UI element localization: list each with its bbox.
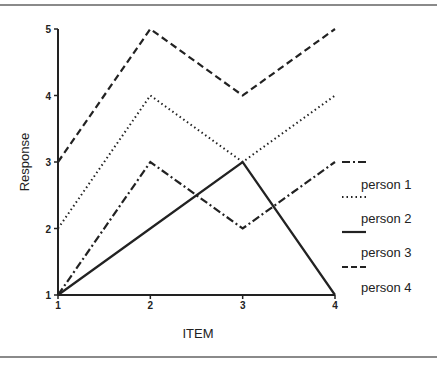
legend-label: person 1: [361, 177, 412, 192]
axes: 123451234: [45, 24, 338, 311]
y-tick-label: 4: [45, 91, 51, 102]
x-tick-label: 1: [55, 300, 61, 311]
x-tick-label: 4: [332, 300, 338, 311]
legend: person 1person 2person 3person 4: [342, 162, 412, 295]
x-axis-label: ITEM: [182, 326, 213, 341]
legend-label: person 4: [361, 280, 412, 295]
line-chart: 123451234 person 1person 2person 3person…: [0, 0, 437, 367]
x-tick-label: 2: [148, 300, 154, 311]
x-tick-label: 3: [240, 300, 246, 311]
y-tick-label: 2: [45, 224, 51, 235]
series-line-person-3: [58, 162, 335, 295]
y-tick-label: 5: [45, 24, 51, 35]
series-line-person-1: [58, 162, 335, 295]
y-axis-label: Response: [17, 133, 32, 192]
series-lines: [58, 29, 335, 295]
legend-label: person 3: [361, 245, 412, 260]
y-tick-label: 1: [45, 290, 51, 301]
series-line-person-2: [58, 96, 335, 229]
y-tick-label: 3: [45, 157, 51, 168]
legend-label: person 2: [361, 211, 412, 226]
series-line-person-4: [58, 29, 335, 162]
